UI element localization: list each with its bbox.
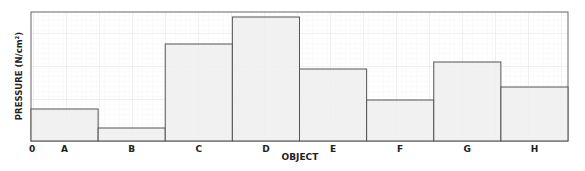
x-tick-f: F	[397, 144, 403, 154]
bar-h	[501, 87, 568, 141]
bar-g	[434, 62, 501, 141]
pressure-bar-chart: 0 ABCDEFGH OBJECT PRESSURE (N/cm²)	[0, 0, 585, 171]
x-tick-g: G	[464, 144, 471, 154]
bar-d	[232, 17, 299, 141]
x-tick-c: C	[196, 144, 203, 154]
x-tick-a: A	[61, 144, 68, 154]
x-axis-label: OBJECT	[282, 152, 320, 162]
y-axis-label: PRESSURE (N/cm²)	[14, 32, 24, 120]
x-tick-e: E	[330, 144, 336, 154]
bar-c	[165, 44, 232, 141]
x-tick-h: H	[531, 144, 539, 154]
bar-b	[98, 128, 165, 141]
origin-label: 0	[29, 144, 35, 154]
x-tick-d: D	[262, 144, 269, 154]
bar-e	[300, 69, 367, 141]
bar-a	[31, 109, 98, 141]
x-tick-b: B	[128, 144, 135, 154]
bar-f	[367, 100, 434, 141]
